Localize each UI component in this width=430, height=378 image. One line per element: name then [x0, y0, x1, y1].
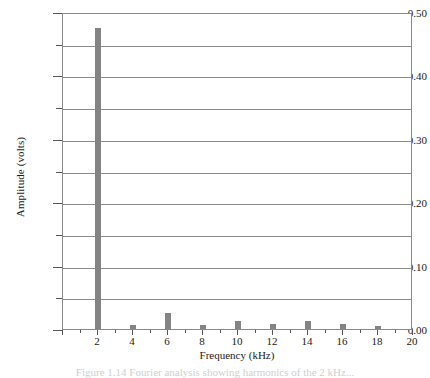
y-tick-major [53, 13, 62, 14]
y-tick-major [53, 267, 62, 268]
x-tick-minor [290, 330, 291, 333]
x-tick-minor [325, 330, 326, 333]
gridline [63, 46, 411, 47]
y-tick-major [53, 330, 62, 331]
y-tick-major [53, 76, 62, 77]
x-tick-label: 14 [287, 335, 327, 347]
x-tick-minor [220, 330, 221, 333]
bar [340, 324, 346, 329]
gridline [63, 109, 411, 110]
x-tick-label: 16 [322, 335, 362, 347]
y-tick-major [53, 140, 62, 141]
bar [375, 326, 381, 329]
x-tick-label: 20 [392, 335, 430, 347]
bar [305, 321, 311, 329]
gridline [63, 299, 411, 300]
figure-caption: Figure 1.14 Fourier analysis showing har… [0, 366, 430, 378]
bar [165, 313, 171, 329]
gridline [63, 77, 411, 78]
x-tick-label: 8 [182, 335, 222, 347]
x-tick-label: 6 [147, 335, 187, 347]
x-axis-title: Frequency (kHz) [62, 349, 412, 361]
y-axis-title: Amplitude (volts) [14, 97, 26, 257]
x-tick-label: 4 [112, 335, 152, 347]
gridline [63, 204, 411, 205]
bar [235, 321, 241, 329]
x-tick-minor [115, 330, 116, 333]
x-tick-label: 10 [217, 335, 257, 347]
x-tick-minor [185, 330, 186, 333]
gridline [63, 173, 411, 174]
x-tick-label: 2 [77, 335, 117, 347]
x-tick-minor [150, 330, 151, 333]
bar [130, 325, 136, 329]
x-tick-label: 18 [357, 335, 397, 347]
y-tick-major [53, 203, 62, 204]
x-tick-minor [360, 330, 361, 333]
bar [270, 324, 276, 329]
gridline [63, 236, 411, 237]
plot-area [62, 13, 412, 330]
x-tick-minor [80, 330, 81, 333]
bar [200, 325, 206, 329]
bar [95, 28, 101, 329]
gridline [63, 268, 411, 269]
gridline [63, 141, 411, 142]
x-tick-label: 12 [252, 335, 292, 347]
x-tick-major [62, 330, 63, 335]
x-tick-minor [395, 330, 396, 333]
x-tick-minor [255, 330, 256, 333]
